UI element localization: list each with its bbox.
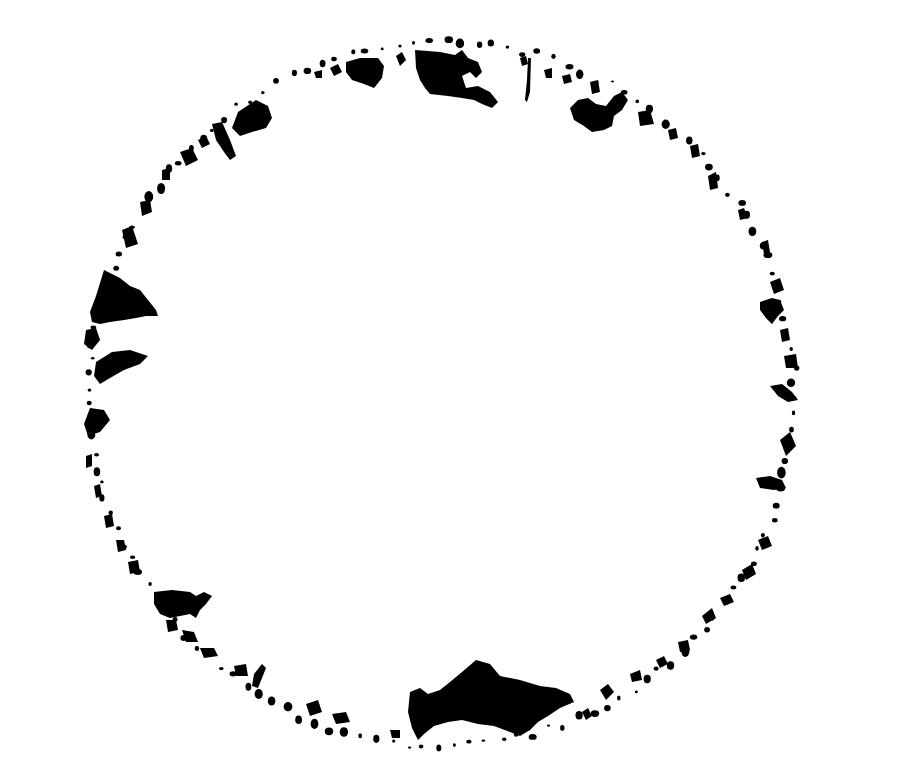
shape-fragment bbox=[690, 144, 700, 158]
shape-island bbox=[520, 56, 528, 66]
tiny-fragment bbox=[284, 702, 293, 711]
shape-fragment bbox=[104, 514, 114, 528]
shape-fragment bbox=[544, 68, 552, 78]
tiny-fragment bbox=[445, 36, 454, 43]
tiny-fragment bbox=[340, 727, 348, 737]
tiny-fragment bbox=[636, 100, 640, 104]
tiny-fragment bbox=[100, 481, 104, 484]
tiny-fragment bbox=[381, 48, 384, 51]
tiny-fragment bbox=[705, 164, 713, 171]
tiny-fragment bbox=[738, 200, 746, 206]
tiny-fragment bbox=[481, 739, 485, 741]
shape-fragment bbox=[780, 328, 790, 342]
tiny-fragment bbox=[419, 745, 424, 749]
tiny-fragment bbox=[662, 120, 670, 129]
tiny-fragment bbox=[175, 161, 182, 165]
tiny-fragment bbox=[488, 40, 494, 47]
tiny-fragment bbox=[725, 193, 730, 197]
tiny-fragment bbox=[320, 60, 326, 67]
tiny-fragment bbox=[690, 635, 697, 640]
shape-antarctica-fragment bbox=[84, 328, 100, 350]
tiny-fragment bbox=[566, 64, 574, 69]
shape-canada bbox=[415, 50, 498, 108]
tiny-fragment bbox=[453, 743, 456, 747]
tiny-fragment bbox=[755, 546, 758, 551]
tiny-fragment bbox=[770, 272, 775, 276]
shape-mongolia bbox=[346, 58, 384, 88]
shape-fragment bbox=[252, 664, 266, 688]
tiny-fragment bbox=[576, 70, 583, 80]
tiny-fragment bbox=[635, 691, 638, 694]
shape-fragment bbox=[234, 664, 248, 676]
tiny-fragment bbox=[304, 68, 312, 74]
tiny-fragment bbox=[210, 129, 214, 132]
shape-fragment bbox=[86, 454, 92, 468]
tiny-fragment bbox=[116, 252, 122, 257]
country-ring-artwork bbox=[0, 0, 899, 780]
tiny-fragment bbox=[502, 738, 506, 742]
tiny-fragment bbox=[86, 369, 92, 375]
tiny-fragment bbox=[425, 38, 433, 43]
shape-fragment bbox=[128, 560, 140, 574]
tiny-fragment bbox=[731, 586, 737, 590]
tiny-fragment bbox=[361, 49, 369, 54]
tiny-fragment bbox=[560, 725, 564, 731]
tiny-fragment bbox=[667, 661, 674, 669]
tiny-fragment bbox=[790, 347, 793, 351]
shape-fragment bbox=[708, 172, 718, 190]
tiny-fragment bbox=[772, 518, 778, 522]
shape-fragment bbox=[162, 168, 170, 180]
shape-fragment bbox=[198, 136, 210, 148]
tiny-fragment bbox=[116, 526, 121, 530]
tiny-fragment bbox=[617, 695, 621, 700]
shape-fragment bbox=[390, 730, 400, 738]
small-country-fragments bbox=[86, 36, 800, 751]
tiny-fragment bbox=[261, 91, 265, 94]
shape-fragment bbox=[720, 594, 734, 606]
shape-fragment bbox=[180, 148, 198, 166]
tiny-fragment bbox=[436, 745, 441, 752]
tiny-fragment bbox=[787, 378, 795, 387]
tiny-fragment bbox=[255, 689, 263, 699]
shape-fragment bbox=[784, 354, 798, 368]
shape-fragment bbox=[762, 240, 770, 254]
shape-fragment bbox=[140, 200, 152, 216]
shape-fragment bbox=[200, 648, 218, 658]
tiny-fragment bbox=[91, 357, 95, 360]
tiny-fragment bbox=[373, 735, 379, 743]
tiny-fragment bbox=[246, 683, 252, 691]
tiny-fragment bbox=[219, 667, 224, 670]
tiny-fragment bbox=[761, 533, 765, 538]
tiny-fragment bbox=[533, 48, 540, 53]
ring-svg bbox=[0, 0, 899, 780]
shape-fragment bbox=[770, 278, 784, 294]
shape-fragment bbox=[638, 110, 654, 126]
tiny-fragment bbox=[792, 411, 795, 416]
shape-greenland bbox=[90, 270, 158, 324]
tiny-fragment bbox=[654, 666, 659, 670]
tiny-fragment bbox=[94, 467, 101, 476]
tiny-fragment bbox=[506, 45, 510, 48]
tiny-fragment bbox=[398, 44, 401, 47]
tiny-fragment bbox=[611, 81, 614, 83]
tiny-fragment bbox=[234, 103, 238, 106]
tiny-fragment bbox=[87, 401, 92, 405]
tiny-fragment bbox=[551, 54, 555, 59]
tiny-fragment bbox=[749, 227, 757, 236]
tiny-fragment bbox=[701, 152, 705, 155]
tiny-fragment bbox=[148, 582, 151, 586]
tiny-fragment bbox=[576, 711, 583, 719]
shape-fragment bbox=[582, 708, 592, 720]
tiny-fragment bbox=[130, 556, 135, 559]
tiny-fragment bbox=[604, 705, 611, 711]
shape-antarctica bbox=[94, 350, 148, 384]
shape-fragment bbox=[562, 74, 572, 84]
tiny-fragment bbox=[519, 52, 525, 57]
tiny-fragment bbox=[358, 733, 362, 738]
shape-fragment bbox=[668, 128, 678, 140]
shape-fragment bbox=[780, 432, 796, 456]
shape-fragment bbox=[656, 656, 668, 668]
tiny-fragment bbox=[529, 734, 537, 740]
tiny-fragment bbox=[412, 41, 415, 45]
shape-fragment bbox=[702, 608, 716, 624]
